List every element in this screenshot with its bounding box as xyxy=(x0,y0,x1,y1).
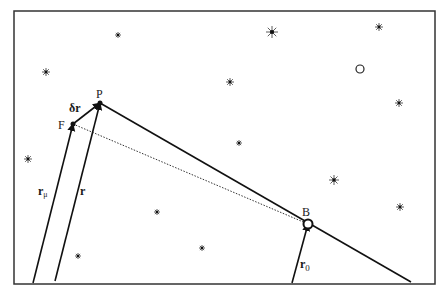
star-icon xyxy=(375,23,383,31)
star-icon xyxy=(236,140,242,146)
label-F: F xyxy=(58,118,65,132)
label-delta-r: δr xyxy=(69,101,81,115)
star-field xyxy=(24,23,404,259)
star-icon xyxy=(226,78,234,86)
vector-r-mu xyxy=(33,124,73,283)
star-icon xyxy=(199,245,205,251)
trajectory-line xyxy=(100,103,411,282)
star-icon xyxy=(396,203,404,211)
label-r-mu: rμ xyxy=(38,184,48,199)
point-B xyxy=(304,220,313,229)
star-icon xyxy=(329,175,339,185)
star-icon xyxy=(24,155,32,163)
frame xyxy=(14,11,435,284)
star-icon xyxy=(154,209,160,215)
star-icon xyxy=(395,99,403,107)
label-r0: r0 xyxy=(300,257,310,273)
label-r: r xyxy=(80,184,86,198)
star-icon xyxy=(75,253,81,259)
point-F xyxy=(71,122,76,127)
star-icon xyxy=(42,68,50,76)
label-P: P xyxy=(96,87,103,101)
point-P xyxy=(98,101,103,106)
label-B: B xyxy=(302,205,310,219)
vector-r0 xyxy=(292,224,308,283)
sightline-dotted xyxy=(73,124,308,224)
star-icon xyxy=(115,32,121,38)
moon-icon xyxy=(356,65,364,73)
star-icon xyxy=(266,26,278,38)
astrometry-diagram: P F B δr rμ r r0 xyxy=(0,0,447,296)
